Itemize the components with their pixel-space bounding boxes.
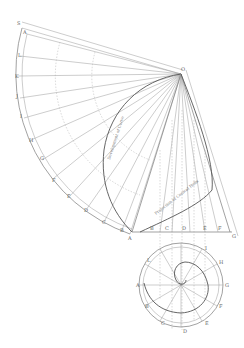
svg-text:H: H xyxy=(219,259,224,265)
svg-text:G: G xyxy=(232,233,236,239)
svg-text:C: C xyxy=(165,225,169,231)
development-curve xyxy=(103,74,181,232)
svg-text:E: E xyxy=(205,320,209,326)
labels: O S A L K J I H G F E D C B A B C D E F … xyxy=(15,20,236,334)
svg-text:K: K xyxy=(15,73,19,79)
svg-text:F: F xyxy=(218,225,222,231)
svg-text:A: A xyxy=(127,235,132,241)
svg-text:E: E xyxy=(67,193,71,199)
svg-text:D: D xyxy=(84,207,88,213)
svg-text:J: J xyxy=(15,93,18,100)
svg-text:E: E xyxy=(203,225,207,231)
elevation xyxy=(132,70,238,330)
svg-text:A: A xyxy=(135,282,140,288)
svg-text:S: S xyxy=(17,20,21,26)
svg-text:B: B xyxy=(120,227,124,233)
plan-view xyxy=(139,243,223,327)
svg-text:F: F xyxy=(52,177,56,183)
cone-development-diagram: O S A L K J I H G F E D C B A B C D E F … xyxy=(0,0,244,348)
svg-text:G: G xyxy=(40,155,44,161)
svg-text:I: I xyxy=(20,113,22,119)
svg-text:B: B xyxy=(150,225,154,231)
svg-text:B: B xyxy=(145,303,149,309)
apex-label: O xyxy=(181,66,185,72)
svg-text:H: H xyxy=(29,137,34,143)
svg-text:C: C xyxy=(102,219,106,225)
development-sector xyxy=(16,22,183,234)
svg-text:A: A xyxy=(22,29,27,35)
caption-helix: Projection of Conical Helix xyxy=(154,178,200,216)
svg-text:F: F xyxy=(219,303,223,309)
caption-development: Development of Curve xyxy=(106,115,125,160)
svg-text:D: D xyxy=(183,328,187,334)
svg-text:D: D xyxy=(182,225,186,231)
svg-text:I: I xyxy=(205,245,207,251)
svg-text:L: L xyxy=(18,52,22,58)
svg-text:G: G xyxy=(225,282,229,288)
svg-text:C: C xyxy=(161,320,165,326)
